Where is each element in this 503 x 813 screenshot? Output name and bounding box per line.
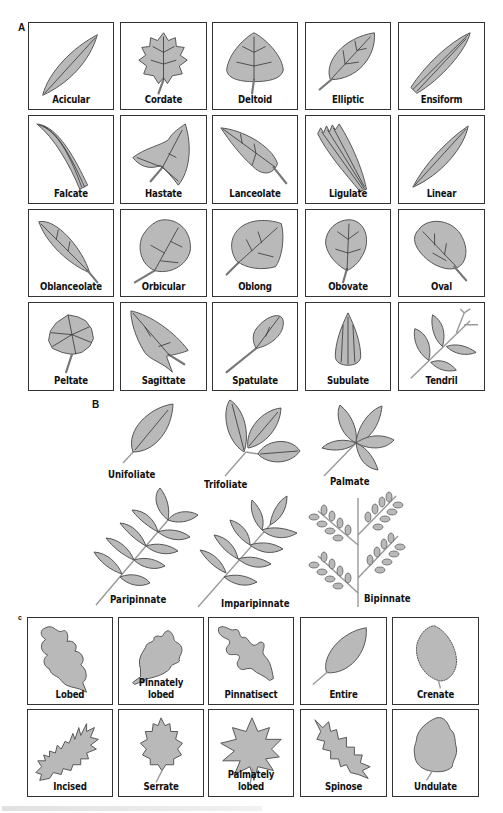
margin-box-pinnately-lobed: Pinnately lobed — [118, 617, 204, 705]
trifoliate-leaf-icon — [225, 400, 300, 476]
serrate-label: Serrate — [127, 780, 196, 792]
bipinnate-leaf-icon — [309, 492, 405, 607]
paripinnate-label: Paripinnate — [110, 593, 166, 605]
incised-label: Incised — [36, 780, 105, 792]
undulate-label: Undulate — [401, 780, 471, 792]
spinose-label: Spinose — [309, 780, 379, 792]
margin-box-lobed: Lobed — [27, 617, 113, 705]
margin-box-entire: Entire — [300, 617, 387, 705]
entire-label: Entire — [309, 688, 379, 700]
margin-box-crenate: Crenate — [392, 617, 479, 705]
margin-box-undulate: Undulate — [392, 709, 479, 797]
trifoliate-label: Trifoliate — [204, 478, 247, 490]
lobed-label: Lobed — [36, 688, 105, 700]
palmate-leaf-icon — [322, 405, 394, 476]
figure-caption-fragment — [2, 806, 262, 811]
margin-box-pinnatisect: Pinnatisect — [208, 617, 294, 705]
margin-box-spinose: Spinose — [300, 709, 387, 797]
section-c-label: c — [18, 614, 22, 621]
crenate-label: Crenate — [401, 688, 471, 700]
unifoliate-label: Unifoliate — [108, 468, 155, 480]
margin-box-serrate: Serrate — [118, 709, 204, 797]
bipinnate-label: Bipinnate — [364, 592, 411, 604]
imparipinnate-leaf-icon — [198, 496, 297, 607]
margin-box-incised: Incised — [27, 709, 113, 797]
paripinnate-leaf-icon — [94, 488, 198, 605]
imparipinnate-label: Imparipinnate — [221, 597, 289, 609]
unifoliate-leaf-icon — [123, 404, 173, 463]
palmately-lobed-label: Palmately lobed — [217, 768, 286, 792]
pinnately-lobed-label: Pinnately lobed — [127, 676, 196, 700]
palmate-label: Palmate — [330, 475, 370, 487]
pinnatisect-label: Pinnatisect — [217, 688, 286, 700]
margin-box-palmately-lobed: Palmately lobed — [208, 709, 294, 797]
